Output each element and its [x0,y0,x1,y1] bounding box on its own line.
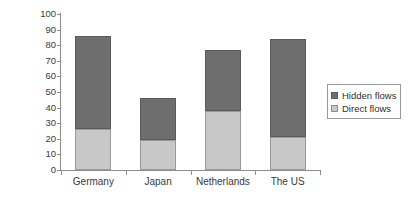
y-axis-tick [57,30,61,31]
y-axis-tick-label: 70 [32,56,56,66]
bar-segment-direct-flows [75,129,111,170]
bar-stack [140,14,176,170]
bar-segment-direct-flows [140,140,176,170]
y-axis-tick [57,139,61,140]
y-axis-tick [57,92,61,93]
x-axis-tick [61,171,62,175]
y-axis-tick-label: 40 [32,103,56,113]
bar-segment-hidden-flows [75,36,111,130]
x-axis-label-netherlands: Netherlands [191,176,256,187]
y-axis-tick-labels: 0102030405060708090100 [30,14,56,170]
x-axis-tick [320,171,321,175]
y-axis-tick [57,76,61,77]
bar-segment-hidden-flows [270,39,306,137]
legend-swatch-icon [331,105,338,112]
y-axis-tick [57,61,61,62]
legend-swatch-icon [331,92,338,99]
y-axis-tick [57,45,61,46]
plot-area [61,14,320,170]
y-axis-tick [57,123,61,124]
y-axis-tick-label: 50 [32,87,56,97]
legend-item: Hidden flows [331,89,396,101]
bar-stack [75,14,111,170]
x-axis-label-germany: Germany [61,176,126,187]
x-axis-tick [191,171,192,175]
bar-segment-hidden-flows [140,98,176,140]
y-axis-tick-label: 10 [32,149,56,159]
y-axis-tick-label: 30 [32,118,56,128]
bar-segment-hidden-flows [205,50,241,111]
legend-item-label: Hidden flows [342,90,396,101]
x-axis-tick [255,171,256,175]
bar-stack [205,14,241,170]
y-axis-tick-label: 60 [32,71,56,81]
y-axis-tick [57,14,61,15]
stacked-bar-chart: Metric tonnes per capita 010203040506070… [0,0,415,203]
legend-item-label: Direct flows [342,103,391,114]
y-axis-tick [57,154,61,155]
y-axis-tick-label: 90 [32,25,56,35]
x-axis-label-japan: Japan [126,176,191,187]
y-axis-tick-label: 80 [32,40,56,50]
y-axis-tick [57,108,61,109]
y-axis-tick-label: 100 [32,9,56,19]
chart-legend: Hidden flowsDirect flows [327,84,401,119]
y-axis-tick-label: 20 [32,134,56,144]
legend-item: Direct flows [331,102,396,114]
bar-segment-direct-flows [205,111,241,170]
x-axis-label-the-us: The US [255,176,320,187]
x-axis-tick [126,171,127,175]
bar-segment-direct-flows [270,137,306,170]
y-axis-tick-label: 0 [32,165,56,175]
bar-stack [270,14,306,170]
